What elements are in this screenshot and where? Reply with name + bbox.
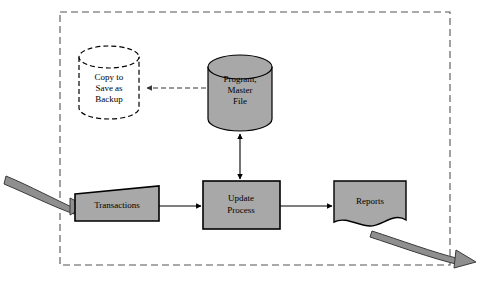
node-label-update-process-line2: Process: [227, 205, 255, 215]
node-copy-to-save-as-backup[interactable]: Copy to Save as Backup: [79, 46, 139, 119]
node-label-transactions: Transactions: [94, 200, 140, 210]
output-ribbon-arrow: [370, 231, 476, 268]
node-label-reports: Reports: [356, 196, 384, 206]
node-reports[interactable]: Reports: [334, 181, 406, 226]
node-program-master-file[interactable]: Program, Master File: [208, 55, 272, 131]
node-label-master-file-line3: File: [233, 96, 247, 106]
node-label-backup-line3: Backup: [95, 94, 123, 104]
node-transactions[interactable]: Transactions: [75, 186, 159, 221]
input-ribbon-arrow: [4, 176, 86, 215]
node-label-backup-line2: Save as: [95, 83, 123, 93]
node-label-update-process-line1: Update: [228, 193, 254, 203]
node-label-backup-line1: Copy to: [95, 72, 124, 82]
node-label-master-file-line1: Program,: [223, 74, 256, 84]
flowchart-svg: Copy to Save as Backup Program, Master F…: [0, 0, 488, 284]
diagram-canvas: Copy to Save as Backup Program, Master F…: [0, 0, 488, 284]
node-label-master-file-line2: Master: [228, 85, 253, 95]
node-update-process[interactable]: Update Process: [203, 181, 280, 229]
